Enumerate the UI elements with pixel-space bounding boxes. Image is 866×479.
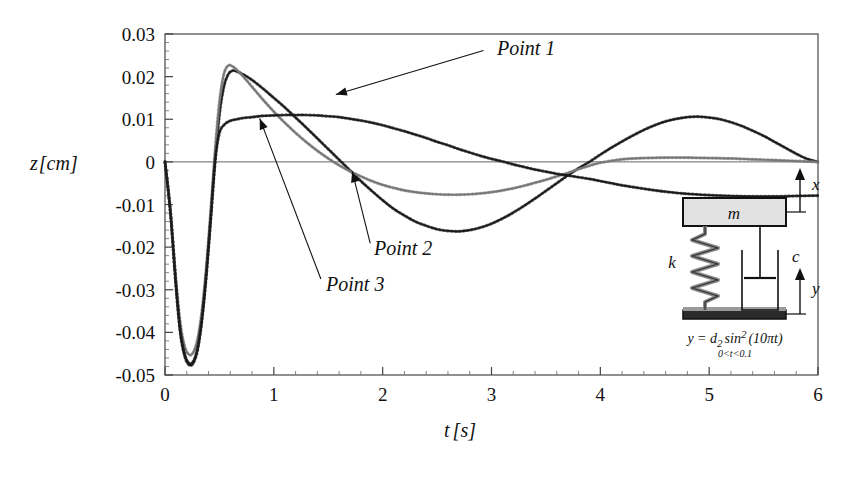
- y-axis-tick-label: 0.03: [122, 24, 155, 45]
- x-axis-tick-label: 5: [704, 384, 714, 405]
- damping-coefficient-label: c: [792, 247, 800, 266]
- base-plate: [683, 310, 786, 319]
- x-axis-tick-label: 4: [596, 384, 606, 405]
- annotation-label: Point 1: [496, 37, 555, 59]
- base-excitation-equation: y = d2sin2(10πt): [685, 328, 783, 349]
- figure-container: 01234560.030.020.010-0.01-0.02-0.03-0.04…: [0, 0, 866, 479]
- x-axis-tick-label: 2: [378, 384, 388, 405]
- y-axis-tick-label: 0.02: [122, 67, 155, 88]
- x-displacement-label: x: [811, 175, 820, 194]
- y-axis-tick-label: -0.05: [115, 365, 155, 386]
- damped-response-chart: 01234560.030.020.010-0.01-0.02-0.03-0.04…: [0, 0, 866, 479]
- x-axis-tick-label: 0: [160, 384, 170, 405]
- y-axis-tick-label: -0.04: [115, 322, 155, 343]
- x-axis-tick-label: 6: [813, 384, 823, 405]
- x-axis-tick-label: 3: [487, 384, 497, 405]
- y-axis-tick-label: -0.02: [115, 237, 155, 258]
- y-axis-title: z[cm]: [29, 152, 78, 174]
- y-axis-tick-label: 0.01: [122, 109, 155, 130]
- spring-constant-label: k: [668, 253, 676, 272]
- base-excitation-range: 0<t<0.1: [718, 348, 752, 359]
- annotation-label: Point 2: [373, 237, 432, 259]
- annotation-label: Point 3: [325, 273, 384, 295]
- y-axis-tick-label: 0: [146, 152, 156, 173]
- y-axis-tick-label: -0.03: [115, 280, 155, 301]
- x-axis-tick-label: 1: [269, 384, 279, 405]
- mass-label: m: [728, 204, 740, 223]
- y-axis-tick-label: -0.01: [115, 195, 155, 216]
- x-axis-title: t[s]: [444, 419, 476, 441]
- y-displacement-label: y: [810, 279, 820, 298]
